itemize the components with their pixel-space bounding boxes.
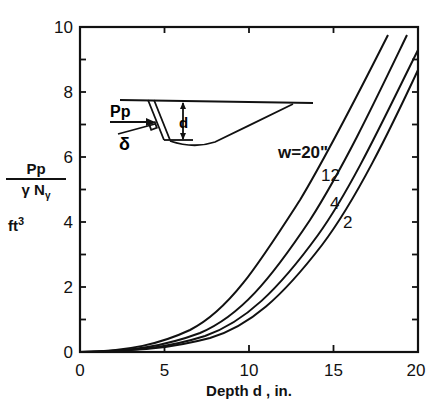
curve-label-w2: 2 [343,213,352,232]
curve-label-w12: 12 [321,166,340,185]
y-ticks [80,60,418,320]
x-tick-10: 10 [240,361,259,380]
y-label-unit-text: ft [8,217,18,234]
y-label-denominator: γ Nγ [6,180,66,204]
y-label-numerator: Pp [6,160,66,180]
inset-diagram [110,100,313,145]
curve-label-w20: w=20" [277,143,328,162]
x-tick-0: 0 [75,361,84,380]
y-tick-8: 8 [64,83,73,102]
chart-canvas: 0 5 10 15 20 0 2 4 6 8 10 Depth d , in. … [0,0,441,418]
curve-label-w4: 4 [330,194,339,213]
y-tick-10: 10 [54,18,73,37]
x-tick-5: 5 [160,361,169,380]
curve-w2 [80,70,418,352]
y-label-den-text: γ N [22,181,45,198]
inset-depth-label: d [179,114,188,131]
curve-w12 [80,35,407,352]
x-axis-label: Depth d , in. [206,382,292,399]
x-tick-20: 20 [407,361,426,380]
curve-w4 [80,50,418,352]
y-axis-label: Pp γ Nγ ft3 [6,160,66,234]
y-tick-2: 2 [64,278,73,297]
curves [80,35,418,352]
x-tick-15: 15 [324,361,343,380]
y-label-unit-sup: 3 [18,215,24,227]
y-label-den-sub: γ [45,190,51,201]
inset-angle-label: δ [119,134,130,154]
x-tick-labels: 0 5 10 15 20 [75,361,425,380]
inset-force-label: Pp [110,103,131,120]
y-tick-0: 0 [64,343,73,362]
curve-w20 [80,35,388,352]
x-ticks [165,27,334,352]
y-label-unit: ft3 [6,213,66,234]
